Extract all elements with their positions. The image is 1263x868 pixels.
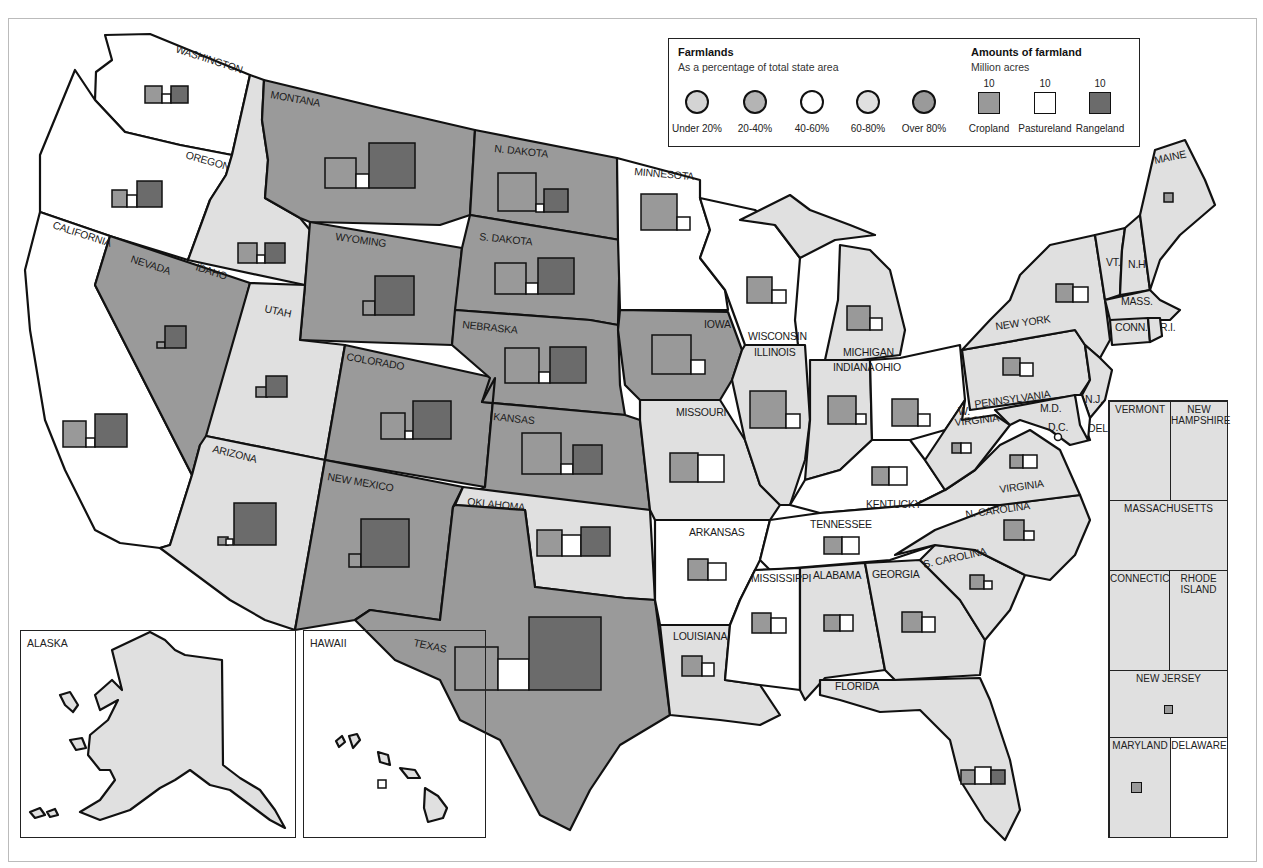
glyph-kentucky: [872, 467, 907, 485]
panel-new-hampshire[interactable]: NEW HAMPSHIRE: [1170, 401, 1228, 501]
glyph-tennessee: [824, 537, 859, 554]
label-missouri: MISSOURI: [676, 406, 726, 418]
panel-md-label: MARYLAND: [1112, 740, 1167, 751]
panel-ri-label-1: RHODE: [1180, 573, 1216, 584]
hawaii-label: HAWAII: [310, 637, 347, 649]
label-alabama: ALABAMA: [813, 569, 861, 581]
glyph-missouri: [670, 453, 724, 482]
panel-connecticut[interactable]: CONNECTICUT: [1109, 570, 1170, 671]
label-florida: FLORIDA: [835, 680, 879, 692]
glyph-alabama: [824, 615, 853, 631]
panel-massachusetts[interactable]: MASSACHUSETTS: [1109, 500, 1228, 571]
panel-vermont-label: VERMONT: [1115, 404, 1165, 415]
label-ohio: OHIO: [875, 361, 901, 373]
farmlands-title: Farmlands: [678, 46, 734, 58]
label-indiana: INDIANA: [833, 361, 874, 373]
state-michigan[interactable]: [825, 245, 905, 360]
legend-circle-over80: [912, 90, 936, 114]
legend-circle-40-60: [800, 90, 824, 114]
label-tennessee: TENNESSEE: [810, 518, 872, 530]
label-conn: CONN.: [1115, 321, 1148, 333]
legend-circle-60-80: [856, 90, 880, 114]
legend-label-over80: Over 80%: [889, 123, 959, 134]
label-vt: VT.: [1106, 256, 1121, 268]
label-dc: D.C.: [1048, 421, 1068, 433]
panel-nh-label-2: HAMPSHIRE: [1171, 415, 1230, 426]
label-mississippi: MISSISSIPPI: [751, 572, 811, 584]
farmlands-subtitle: As a percentage of total state area: [678, 61, 839, 73]
label-iowa: IOWA: [704, 318, 731, 330]
label-del: DEL: [1088, 422, 1108, 434]
legend-square-rangeland: [1089, 92, 1111, 114]
glyph-w-virginia: [952, 443, 971, 453]
amounts-title: Amounts of farmland: [971, 46, 1082, 58]
label-georgia: GEORGIA: [872, 568, 920, 580]
amounts-subtitle: Million acres: [971, 61, 1029, 73]
legend-value-rangeland: 10: [1089, 78, 1111, 89]
panel-rhode-island[interactable]: RHODE ISLAND: [1169, 570, 1228, 671]
label-arkansas: ARKANSAS: [689, 526, 745, 538]
label-michigan: MICHIGAN: [843, 346, 894, 358]
alaska-label: ALASKA: [27, 637, 68, 649]
alaska-inset: ALASKA: [20, 630, 296, 838]
panel-mass-label: MASSACHUSETTS: [1124, 503, 1213, 514]
panel-delaware[interactable]: DELAWARE: [1170, 737, 1228, 838]
panel-maryland[interactable]: MARYLAND: [1109, 737, 1171, 838]
legend-value-cropland: 10: [978, 78, 1000, 89]
legend-square-cropland: [978, 92, 1000, 114]
label-illinois: ILLINOIS: [754, 346, 796, 358]
label-wisconsin: WISCONSIN: [748, 330, 807, 342]
label-nh: N.H.: [1128, 258, 1148, 270]
label-md: M.D.: [1040, 402, 1061, 414]
legend: Farmlands As a percentage of total state…: [668, 38, 1140, 147]
label-kentucky: KENTUCKY: [866, 498, 922, 510]
label-louisiana: LOUISIANA: [673, 630, 727, 642]
state-maine[interactable]: [1140, 140, 1215, 290]
dc-marker: [1055, 434, 1062, 441]
legend-value-pastureland: 10: [1034, 78, 1056, 89]
legend-square-pastureland: [1034, 92, 1056, 114]
hawaii-inset: HAWAII: [303, 630, 486, 838]
glyph-maine: [1164, 193, 1173, 202]
label-ri: R.I.: [1160, 321, 1176, 333]
glyph-virginia: [1010, 455, 1037, 468]
panel-nj-label: NEW JERSEY: [1136, 673, 1201, 684]
label-nj: N.J.: [1085, 393, 1103, 405]
panel-ri-label-2: ISLAND: [1180, 584, 1216, 595]
northeast-panel: VERMONT NEW HAMPSHIRE MASSACHUSETTS CONN…: [1108, 400, 1228, 838]
legend-circle-under20: [685, 90, 709, 114]
panel-nh-label-1: NEW: [1187, 404, 1210, 415]
label-mass: MASS.: [1121, 295, 1153, 307]
legend-label-rangeland: Rangeland: [1065, 123, 1135, 134]
panel-new-jersey[interactable]: NEW JERSEY: [1109, 670, 1228, 738]
panel-vermont[interactable]: VERMONT: [1109, 401, 1171, 501]
state-florida[interactable]: [820, 678, 1020, 840]
legend-circle-20-40: [743, 90, 767, 114]
panel-del-label: DELAWARE: [1171, 740, 1226, 751]
panel-md-glyph: [1131, 782, 1142, 793]
panel-nj-glyph: [1164, 705, 1173, 714]
glyph-florida: [961, 767, 1005, 784]
glyph-new-york: [1056, 284, 1088, 302]
